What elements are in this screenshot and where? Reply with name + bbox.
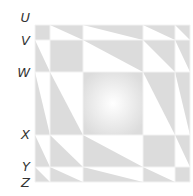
cell-u-u [35, 25, 50, 40]
cell-u-y [175, 25, 190, 40]
matrix-grid [0, 0, 193, 196]
cell-u-w [83, 25, 143, 40]
cell-v-x [143, 40, 175, 72]
cell-v-u [35, 40, 50, 72]
cell-x-w [83, 135, 143, 167]
cell-w-u [35, 72, 50, 135]
cell-y-u [35, 167, 50, 182]
cell-v-v [50, 40, 83, 72]
cell-x-x [143, 135, 175, 167]
cell-w-x [143, 72, 175, 135]
cell-v-w [83, 40, 143, 72]
cell-w-y [175, 72, 190, 135]
triangle-matrix-diagram: U V W X Y Z [0, 0, 193, 196]
cell-x-u [35, 135, 50, 167]
cell-x-y [175, 135, 190, 167]
cell-u-v [50, 25, 83, 40]
cell-w-v [50, 72, 83, 135]
cell-y-v [50, 167, 83, 182]
cell-w-w [83, 72, 143, 135]
cell-x-v [50, 135, 83, 167]
matrix-cells [35, 25, 190, 182]
cell-y-w [83, 167, 143, 182]
cell-y-x [143, 167, 175, 182]
cell-v-y [175, 40, 190, 72]
cell-u-x [143, 25, 175, 40]
cell-y-y [175, 167, 190, 182]
